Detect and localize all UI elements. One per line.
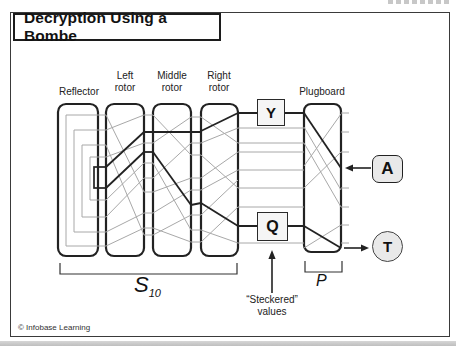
letter-t: T	[383, 238, 392, 255]
s10-subscript: 10	[149, 287, 161, 299]
letter-q: Q	[266, 218, 278, 236]
s10-symbol: S	[134, 272, 149, 297]
bracket-p	[305, 261, 342, 272]
middle-rotor-label: Middle rotor	[157, 70, 186, 93]
arrow-plugboard-to-t	[344, 244, 369, 251]
letter-t-lamp: T	[372, 231, 403, 262]
arrow-a-to-plugboard	[345, 164, 371, 171]
arrow-steckered-to-q	[268, 250, 275, 293]
plugboard-stubs	[341, 113, 349, 243]
right-rotor-label: Right rotor	[207, 70, 230, 93]
reflector-box	[58, 104, 98, 256]
letter-a: A	[381, 159, 393, 179]
letter-y: Y	[266, 104, 276, 121]
plugboard-label: Plugboard	[299, 86, 345, 98]
p-label: P	[316, 272, 327, 290]
reflector-label: Reflector	[59, 86, 99, 98]
figure-page: Decryption Using a Bombe	[0, 0, 456, 346]
gap-left-middle-wires	[144, 115, 153, 235]
copyright-text: © Infobase Learning	[18, 323, 90, 332]
gap-middle-right-wires	[191, 117, 201, 242]
letter-y-box: Y	[257, 99, 285, 126]
steckered-values-label: “Steckered” values	[246, 294, 298, 318]
left-rotor-label: Left rotor	[115, 70, 136, 93]
letter-q-box: Q	[257, 212, 288, 241]
letter-a-key: A	[372, 155, 403, 183]
s10-label: S10	[134, 272, 161, 299]
